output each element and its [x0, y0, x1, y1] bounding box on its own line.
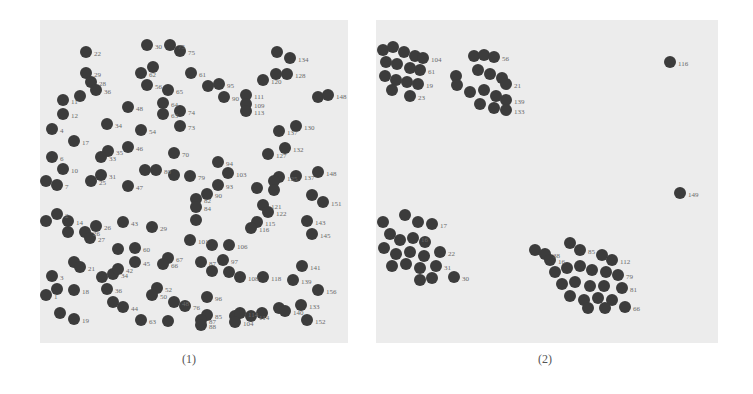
point-label: 61 — [199, 71, 207, 79]
point-label: 64 — [171, 101, 179, 109]
data-point — [57, 163, 69, 175]
data-point — [218, 91, 230, 103]
data-point — [101, 283, 113, 295]
data-point — [379, 70, 391, 82]
point-label: 10 — [71, 167, 79, 175]
data-point — [157, 258, 169, 270]
data-point — [394, 234, 406, 246]
data-point — [674, 187, 686, 199]
data-point — [412, 78, 424, 90]
data-point — [569, 276, 581, 288]
point-label: 34 — [115, 122, 123, 130]
point-label: 22 — [94, 50, 102, 58]
data-point — [174, 120, 186, 132]
scatter-plot-2: 1046119235621139133116149171622313038168… — [376, 20, 718, 343]
point-label: 95 — [227, 82, 235, 90]
data-point — [96, 271, 108, 283]
point-label: 139 — [301, 278, 312, 286]
point-label: 17 — [82, 139, 90, 147]
data-point — [80, 46, 92, 58]
data-point — [217, 254, 229, 266]
point-label: 111 — [254, 93, 264, 101]
point-label: 45 — [143, 260, 151, 268]
point-label: 48 — [182, 300, 190, 308]
caption-panel-1: (1) — [182, 352, 196, 367]
data-point — [262, 148, 274, 160]
data-point — [598, 280, 610, 292]
data-point — [478, 49, 490, 61]
point-label: 31 — [109, 173, 117, 181]
data-point — [245, 222, 257, 234]
data-point — [141, 79, 153, 91]
data-point — [157, 108, 169, 120]
data-point — [312, 91, 324, 103]
data-point — [386, 260, 398, 272]
point-label: 43 — [131, 220, 139, 228]
data-point — [412, 216, 424, 228]
point-label: 19 — [426, 82, 434, 90]
data-point — [212, 179, 224, 191]
data-point — [306, 189, 318, 201]
point-label: 47 — [136, 184, 144, 192]
point-label: 63 — [171, 112, 179, 120]
data-point — [600, 266, 612, 278]
data-point — [404, 246, 416, 258]
point-label: 101 — [198, 238, 209, 246]
point-label: 36 — [115, 287, 123, 295]
point-label: 152 — [315, 318, 326, 326]
data-point — [279, 305, 291, 317]
point-label: 120 — [271, 78, 282, 86]
data-point — [240, 105, 252, 117]
point-label: 54 — [149, 128, 157, 136]
data-point — [184, 170, 196, 182]
point-label: 61 — [428, 68, 436, 76]
data-point — [257, 271, 269, 283]
point-label: 96 — [215, 295, 223, 303]
data-point — [384, 228, 396, 240]
data-point — [146, 289, 158, 301]
point-label: 133 — [514, 108, 525, 116]
data-point — [322, 89, 334, 101]
point-label: 134 — [298, 56, 309, 64]
point-label: 85 — [588, 248, 596, 256]
data-point — [185, 67, 197, 79]
point-label: 27 — [98, 236, 106, 244]
data-point — [448, 271, 460, 283]
data-point — [584, 280, 596, 292]
data-point — [54, 307, 66, 319]
point-label: 63 — [149, 318, 157, 326]
point-label: 137 — [304, 174, 315, 182]
point-label: 106 — [237, 243, 248, 251]
point-label: 4 — [60, 127, 64, 135]
point-label: 7 — [65, 183, 69, 191]
data-point — [390, 248, 402, 260]
data-point — [68, 284, 80, 296]
data-point — [592, 292, 604, 304]
point-label: 108 — [248, 275, 259, 283]
data-point — [62, 226, 74, 238]
point-label: 84 — [204, 205, 212, 213]
data-point — [430, 260, 442, 272]
point-label: 125 — [287, 175, 298, 183]
data-point — [612, 269, 624, 281]
point-label: 132 — [293, 146, 304, 154]
point-label: 88 — [209, 323, 217, 331]
data-point — [301, 215, 313, 227]
point-label: 75 — [178, 43, 186, 51]
point-label: 130 — [304, 124, 315, 132]
point-label: 141 — [310, 264, 321, 272]
data-point — [378, 242, 390, 254]
point-label: 11 — [71, 98, 78, 106]
point-label: 122 — [276, 210, 287, 218]
point-label: 140 — [293, 309, 304, 317]
data-point — [162, 84, 174, 96]
data-point — [101, 118, 113, 130]
data-point — [201, 291, 213, 303]
data-point — [46, 270, 58, 282]
point-label: 6 — [60, 155, 64, 163]
point-label: 70 — [182, 151, 190, 159]
point-label: 79 — [198, 174, 206, 182]
data-point — [135, 124, 147, 136]
data-point — [135, 67, 147, 79]
data-point — [400, 258, 412, 270]
